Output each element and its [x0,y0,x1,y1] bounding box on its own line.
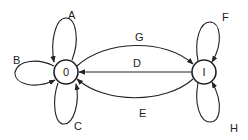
edge-label-c: C [74,120,82,132]
edge-f-loop [197,22,220,62]
edge-h-loop [197,82,220,122]
node-0-label: 0 [63,66,69,78]
edge-a-loop [53,18,77,62]
edge-b-loop [15,61,55,85]
edge-label-a: A [68,9,76,21]
edge-c-loop [55,83,78,124]
state-diagram: A B C G D E F H 0 I [0,0,248,140]
node-i-label: I [202,66,205,78]
edge-label-e: E [139,107,146,119]
edge-label-d: D [133,57,141,69]
edge-label-h: H [230,122,238,134]
edge-label-f: F [222,11,229,23]
node-i: I [192,60,216,84]
edge-e-arc [77,79,193,98]
node-0: 0 [54,60,78,84]
edge-label-g: G [135,31,144,43]
edge-label-b: B [13,54,20,66]
